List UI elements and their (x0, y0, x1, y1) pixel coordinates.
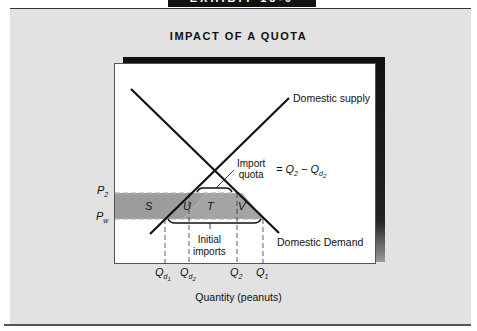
qd1-main: Q (155, 266, 164, 278)
initial-imports-label: Initial imports (193, 234, 226, 258)
qd2-subsub: 2 (192, 277, 195, 283)
initial-imports-text-1: Initial (193, 234, 226, 246)
initial-imports-bracket (168, 219, 261, 223)
import-quota-label: Import quota (237, 158, 265, 180)
region-t-label: T (207, 200, 214, 212)
pw-sub: w (103, 217, 108, 224)
q2-main: Q (230, 266, 239, 278)
p2-label: P2 (97, 184, 108, 198)
qd2-label: Qd2 (180, 266, 196, 283)
p2-sub: 2 (104, 191, 108, 198)
q2-sub: 2 (239, 273, 243, 280)
domestic-demand-label: Domestic Demand (277, 236, 363, 248)
pw-label: Pw (96, 210, 108, 224)
q2-label: Q2 (230, 266, 242, 280)
region-u-label: U (183, 200, 191, 212)
q1-main: Q (256, 266, 265, 278)
qd1-label: Qd1 (155, 266, 171, 283)
eq-part: − Q (298, 163, 319, 175)
q1-label: Q1 (256, 266, 268, 280)
region-v-label: V (238, 200, 245, 212)
import-quota-text-1: Import (237, 158, 265, 169)
eq-part: 2 (323, 174, 326, 180)
initial-imports-text-2: imports (193, 246, 226, 258)
x-axis-label: Quantity (peanuts) (0, 291, 477, 303)
eq-part: = Q (276, 163, 294, 175)
qd1-subsub: 1 (167, 277, 170, 283)
quota-equation: = Q2 − Qd2 (276, 163, 326, 180)
import-quota-bracket (197, 188, 232, 192)
region-s-label: S (145, 200, 152, 212)
qd2-main: Q (180, 266, 189, 278)
domestic-supply-label: Domestic supply (293, 92, 370, 104)
q1-sub: 1 (265, 273, 269, 280)
import-quota-text-2: quota (237, 169, 265, 180)
